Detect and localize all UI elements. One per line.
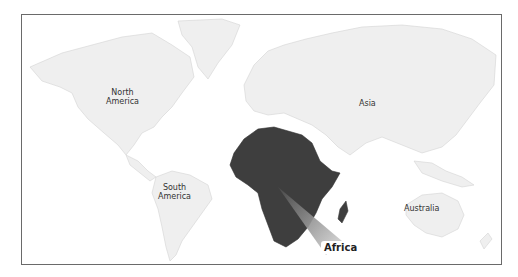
label-australia: Australia xyxy=(404,204,439,213)
label-south-america-line1: South xyxy=(158,183,191,192)
label-africa: Africa xyxy=(321,241,360,254)
madagascar-shape xyxy=(338,201,348,223)
label-north-america-line2: America xyxy=(106,97,139,106)
world-map-frame: North America South America Asia Austral… xyxy=(21,14,502,265)
label-north-america-line1: North xyxy=(106,88,139,97)
se-asia-islands-shape xyxy=(414,161,474,187)
world-map xyxy=(22,15,501,264)
central-america-shape xyxy=(126,155,156,181)
new-zealand-shape xyxy=(480,233,492,249)
australia-shape xyxy=(406,193,464,237)
label-asia: Asia xyxy=(359,99,376,108)
label-south-america-line2: America xyxy=(158,192,191,201)
label-north-america: North America xyxy=(106,88,139,106)
label-south-america: South America xyxy=(158,183,191,201)
